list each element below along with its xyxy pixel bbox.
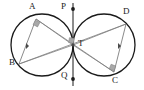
vertex-label-t: T xyxy=(78,39,84,48)
vertex-label-a: A xyxy=(29,2,36,11)
vertex-label-c: C xyxy=(112,76,118,85)
tick-marker-right-radius xyxy=(118,43,121,49)
dot-q xyxy=(71,77,75,81)
segment-c-d xyxy=(114,24,126,72)
tick-marker-left-radius xyxy=(26,43,29,49)
vertex-label-q: Q xyxy=(61,71,68,80)
segment-c-t xyxy=(73,45,114,72)
segment-a-t xyxy=(36,19,73,45)
vertex-label-d: D xyxy=(123,7,130,16)
vertex-label-b: B xyxy=(9,58,15,67)
dot-p xyxy=(71,7,75,11)
dot-t xyxy=(71,43,74,46)
right-angle-marker-at-t xyxy=(69,38,75,44)
segment-a-b xyxy=(19,19,36,64)
geometry-figure: A B C D P Q T xyxy=(0,0,144,90)
vertex-label-p: P xyxy=(61,2,66,11)
